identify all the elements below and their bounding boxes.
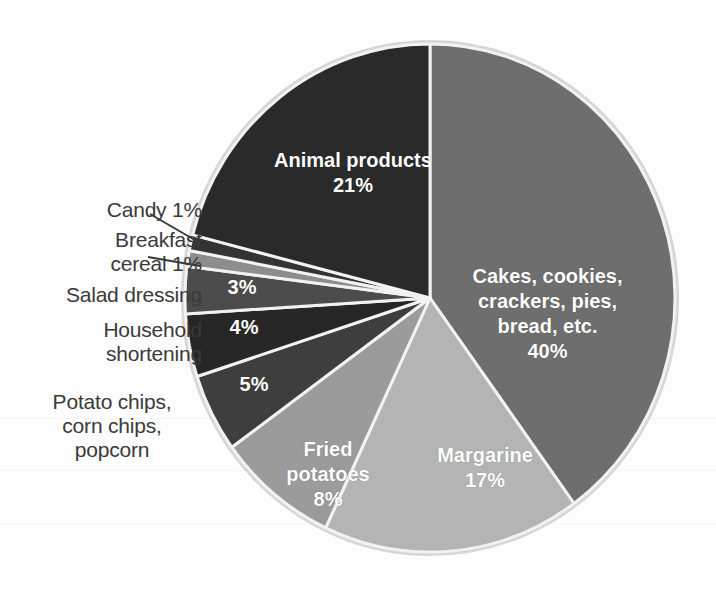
slice-label-salad-dressing-percent: 3% (206, 275, 278, 299)
slice-label-cakes: Cakes, cookies, crackers, pies, bread, e… (445, 264, 650, 364)
slice-label-potato-chips-percent: 5% (218, 372, 290, 396)
slice-label-fried-potatoes: Fried potatoes 8% (268, 437, 388, 512)
callout-label-candy: Candy 1% (22, 198, 202, 222)
slice-label-margarine: Margarine 17% (410, 443, 560, 493)
callout-label-household-shortening: Household shortening (22, 318, 202, 366)
slice-label-household-shortening-percent: 4% (208, 315, 280, 339)
pie-chart-figure: Candy 1% Breakfast cereal 1% Salad dress… (0, 0, 716, 596)
callout-label-potato-chips: Potato chips, corn chips, popcorn (22, 390, 202, 462)
callout-label-breakfast-cereal: Breakfast cereal 1% (22, 228, 202, 276)
callout-label-salad-dressing: Salad dressing (12, 283, 202, 307)
slice-label-animal-products: Animal products 21% (248, 148, 458, 198)
